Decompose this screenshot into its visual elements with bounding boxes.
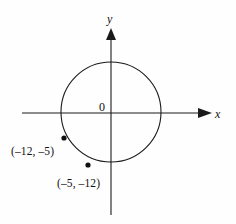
- y-axis-arrowhead: [106, 28, 116, 40]
- point-marker-2: [85, 162, 90, 167]
- point-label-1: (–12, –5): [11, 146, 54, 158]
- x-axis-label: x: [215, 108, 220, 120]
- point-marker-1: [61, 135, 66, 140]
- point-label-2: (–5, –12): [57, 178, 100, 190]
- origin-label: 0: [99, 101, 105, 113]
- y-axis-label: y: [107, 13, 112, 25]
- circle-graph-figure: y x 0 (–12, –5) (–5, –12): [0, 0, 236, 224]
- coordinate-plane-svg: [0, 0, 236, 224]
- x-axis-arrowhead: [198, 108, 212, 118]
